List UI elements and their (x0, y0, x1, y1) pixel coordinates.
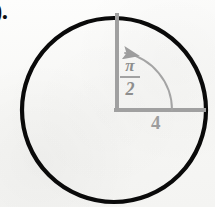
angle-numerator-pi: π (123, 57, 136, 75)
radius-length-label: 4 (151, 113, 161, 132)
math-figure-circle-arc: ). π 2 4 (0, 0, 215, 207)
angle-denominator-two: 2 (126, 80, 135, 98)
angle-measure-label: π 2 (120, 57, 140, 98)
figure-canvas (0, 0, 215, 207)
fraction-bar (120, 76, 140, 78)
problem-number-label: ). (0, 0, 8, 23)
